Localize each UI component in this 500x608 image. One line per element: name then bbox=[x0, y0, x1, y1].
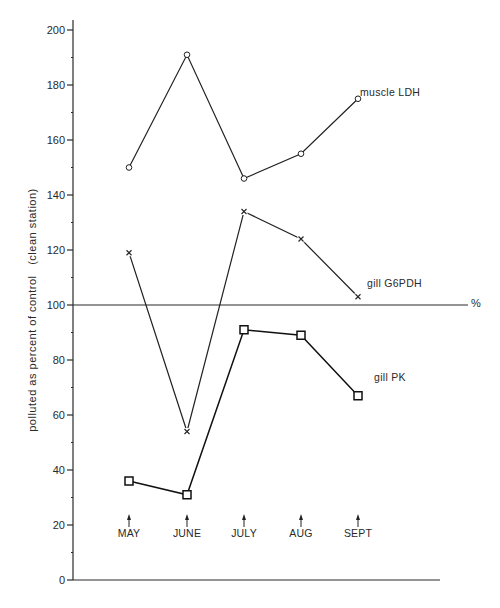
series-line bbox=[129, 55, 358, 179]
y-tick-label: 160 bbox=[47, 134, 65, 146]
enzyme-activity-chart: 020406080100120140160180200 MAYJUNEJULYA… bbox=[0, 0, 500, 608]
circle-marker bbox=[126, 165, 132, 171]
month-label: MAY bbox=[118, 527, 141, 539]
circle-marker bbox=[241, 176, 247, 182]
square-marker bbox=[125, 477, 133, 485]
circle-marker bbox=[184, 52, 190, 58]
y-tick-label: 20 bbox=[53, 519, 65, 531]
y-tick-label: 180 bbox=[47, 79, 65, 91]
arrowhead-icon bbox=[356, 514, 360, 520]
series-line bbox=[129, 212, 358, 432]
y-tick-label: 120 bbox=[47, 244, 65, 256]
arrowhead-icon bbox=[127, 514, 131, 520]
arrowhead-icon bbox=[185, 514, 189, 520]
month-marker-july: JULY bbox=[231, 514, 257, 539]
series-label-gill-pk: gill PK bbox=[374, 371, 406, 383]
month-label: JUNE bbox=[173, 527, 201, 539]
month-marker-june: JUNE bbox=[173, 514, 201, 539]
y-tick-label: 40 bbox=[53, 464, 65, 476]
series-line bbox=[129, 330, 358, 495]
series-layer bbox=[125, 52, 362, 499]
y-axis: 020406080100120140160180200 bbox=[47, 20, 73, 586]
y-tick-label: 60 bbox=[53, 409, 65, 421]
month-marker-aug: AUG bbox=[289, 514, 312, 539]
month-marker-may: MAY bbox=[118, 514, 141, 539]
series-label-gill-g6pdh: gill G6PDH bbox=[367, 277, 422, 289]
series-muscle-ldh bbox=[126, 52, 361, 181]
square-marker bbox=[297, 331, 305, 339]
month-markers: MAYJUNEJULYAUGSEPT bbox=[118, 514, 373, 539]
month-label: AUG bbox=[289, 527, 312, 539]
square-marker bbox=[240, 326, 248, 334]
square-marker bbox=[354, 392, 362, 400]
month-label: SEPT bbox=[344, 527, 373, 539]
percent-label: % bbox=[471, 297, 481, 309]
month-label: JULY bbox=[231, 527, 257, 539]
arrowhead-icon bbox=[242, 514, 246, 520]
series-label-muscle-ldh: muscle LDH bbox=[360, 86, 420, 98]
y-axis-title: polluted as percent of control (clean st… bbox=[26, 188, 38, 432]
y-tick-label: 140 bbox=[47, 189, 65, 201]
y-tick-label: 100 bbox=[47, 299, 65, 311]
month-marker-sept: SEPT bbox=[344, 514, 373, 539]
y-tick-label: 200 bbox=[47, 24, 65, 36]
circle-marker bbox=[298, 151, 304, 157]
y-tick-label: 0 bbox=[59, 574, 65, 586]
series-gill-g6pdh bbox=[126, 208, 362, 435]
square-marker bbox=[183, 491, 191, 499]
y-tick-label: 80 bbox=[53, 354, 65, 366]
arrowhead-icon bbox=[299, 514, 303, 520]
